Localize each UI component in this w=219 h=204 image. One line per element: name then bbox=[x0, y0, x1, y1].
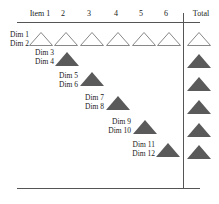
filled-triangle-icon bbox=[106, 96, 130, 110]
row-label-dim11-dim12: Dim 11 Dim 12 bbox=[132, 140, 155, 158]
filled-triangle-icon bbox=[133, 120, 157, 134]
header-item-5: 5 bbox=[139, 9, 143, 18]
total-filled-triangle-icon bbox=[187, 77, 211, 91]
label-dim-2: Dim 2 bbox=[10, 39, 29, 48]
outline-triangle-icon bbox=[157, 32, 181, 46]
header-item-3: 3 bbox=[87, 9, 91, 18]
label-dim-12: Dim 12 bbox=[132, 149, 155, 158]
outline-triangle-icon bbox=[106, 32, 130, 46]
outline-triangle-icon bbox=[80, 32, 104, 46]
label-dim-6: Dim 6 bbox=[59, 80, 78, 89]
total-divider-line bbox=[183, 13, 184, 189]
label-dim-1: Dim 1 bbox=[10, 30, 29, 39]
total-filled-triangle-icon bbox=[187, 54, 211, 68]
label-dim-10: Dim 10 bbox=[108, 126, 131, 135]
row-label-dim1-dim2: Dim 1 Dim 2 bbox=[10, 30, 29, 48]
outline-triangle-icon bbox=[132, 32, 156, 46]
header-item-2: 2 bbox=[61, 9, 65, 18]
label-dim-5: Dim 5 bbox=[59, 71, 78, 80]
row-label-dim3-dim4: Dim 3 Dim 4 bbox=[35, 48, 54, 66]
header-total: Total bbox=[193, 9, 209, 18]
row-label-dim9-dim10: Dim 9 Dim 10 bbox=[108, 117, 131, 135]
label-dim-7: Dim 7 bbox=[85, 93, 104, 102]
label-dim-8: Dim 8 bbox=[85, 102, 104, 111]
outline-triangle-icon bbox=[54, 32, 78, 46]
label-dim-11: Dim 11 bbox=[132, 140, 155, 149]
bottom-divider-line bbox=[17, 188, 200, 189]
total-filled-triangle-icon bbox=[187, 145, 211, 159]
label-dim-4: Dim 4 bbox=[35, 57, 54, 66]
filled-triangle-icon bbox=[80, 72, 104, 86]
header-divider-line bbox=[17, 22, 200, 23]
diagram: Item 1 2 3 4 5 6 Total Dim 1 Dim 2 Dim 3… bbox=[0, 0, 219, 204]
header-item-4: 4 bbox=[114, 9, 118, 18]
filled-triangle-icon bbox=[156, 143, 180, 157]
total-filled-triangle-icon bbox=[187, 100, 211, 114]
label-dim-3: Dim 3 bbox=[35, 48, 54, 57]
filled-triangle-icon bbox=[55, 52, 79, 66]
total-filled-triangle-icon bbox=[187, 123, 211, 137]
row-label-dim7-dim8: Dim 7 Dim 8 bbox=[85, 93, 104, 111]
row-label-dim5-dim6: Dim 5 Dim 6 bbox=[59, 71, 78, 89]
header-item-6: 6 bbox=[164, 9, 168, 18]
label-dim-9: Dim 9 bbox=[108, 117, 131, 126]
header-item-1: Item 1 bbox=[30, 9, 51, 18]
outline-triangle-icon bbox=[29, 32, 53, 46]
total-outline-triangle-icon bbox=[187, 32, 211, 46]
